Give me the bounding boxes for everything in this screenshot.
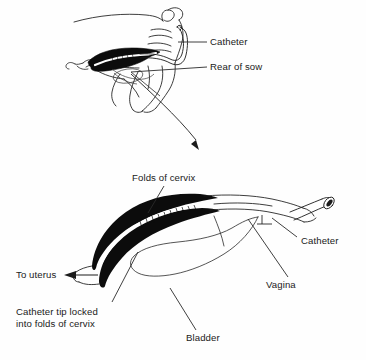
- label-bladder: Bladder: [186, 332, 220, 344]
- label-rear-of-sow: Rear of sow: [210, 61, 262, 73]
- label-catheter-bottom: Catheter: [301, 235, 339, 247]
- label-catheter-top: Catheter: [210, 36, 248, 48]
- label-to-uterus: To uterus: [16, 269, 56, 281]
- label-folds-of-cervix: Folds of cervix: [132, 172, 195, 184]
- figure-canvas: Catheter Rear of sow Folds of cervix To …: [0, 0, 366, 360]
- label-vagina: Vagina: [266, 279, 296, 291]
- label-catheter-tip-locked: Catheter tip locked into folds of cervix: [16, 306, 98, 330]
